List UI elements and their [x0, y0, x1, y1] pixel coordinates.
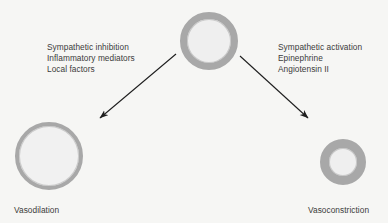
vasodilation-outcome-label: Vasodilation — [14, 205, 59, 215]
vessel-constricted-icon — [320, 139, 366, 185]
vasodilation-factor-2: Inflammatory mediators — [47, 53, 135, 64]
vessel-normal-icon — [180, 12, 238, 70]
vasodilation-factors-list: Sympathetic inhibition Inflammatory medi… — [47, 42, 135, 76]
vascular-tone-diagram: Sympathetic inhibition Inflammatory medi… — [0, 0, 388, 223]
vasoconstriction-factor-3: Angiotensin II — [278, 64, 362, 75]
vasodilation-factor-3: Local factors — [47, 64, 135, 75]
vasoconstriction-factors-list: Sympathetic activation Epinephrine Angio… — [278, 42, 362, 76]
vasoconstriction-factor-2: Epinephrine — [278, 53, 362, 64]
vasoconstriction-outcome-label: Vasoconstriction — [308, 205, 369, 215]
vessel-dilated-icon — [15, 122, 83, 190]
vasoconstriction-factor-1: Sympathetic activation — [278, 42, 362, 53]
vasodilation-factor-1: Sympathetic inhibition — [47, 42, 135, 53]
